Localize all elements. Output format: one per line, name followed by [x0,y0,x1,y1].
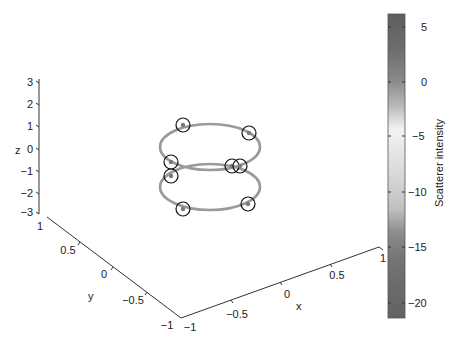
z-tick-label: 2 [27,98,33,110]
y-tick-label: 0.5 [60,244,75,256]
scatterer-marker [242,126,256,140]
scatterer-markers [164,118,256,216]
z-tick-label: 0 [27,143,33,155]
colorbar-tick-label: −5 [412,130,425,142]
y-tick-label: 1 [37,220,43,232]
colorbar-tick-label: −10 [408,186,427,198]
y-ticks [78,242,147,295]
y-tick-label: 0 [101,268,107,280]
colorbar-label: Scatterer intensity [433,118,445,207]
x-tick-label: −0.5 [226,308,248,320]
z-axis: 3 2 1 0 −1 −2 −3 z [15,76,39,218]
z-tick-label: −2 [20,187,33,199]
z-tick-label: 1 [27,120,33,132]
scatterer-plot: 3 2 1 0 −1 −2 −3 z 1 0.5 0 −0.5 −1 y −1 … [0,0,459,349]
y-axis-label: y [88,290,94,302]
y-tick-label: −0.5 [122,294,144,306]
x-axis-line [181,247,383,318]
z-axis-label: z [15,144,21,156]
z-tick-label: −3 [20,206,33,218]
colorbar-gradient [388,14,405,318]
colorbar-tick-label: −20 [408,297,427,309]
x-tick-label: 0 [284,288,290,300]
x-axis-label: x [296,300,302,312]
colorbar: 5 0 −5 −10 −15 −20 Scatterer intensity [388,14,445,318]
x-axis: −1 −0.5 0 0.5 1 x [181,247,386,333]
y-tick-label: −1 [161,319,174,331]
colorbar-tick-label: 0 [421,76,427,88]
colorbar-tick-label: 5 [421,21,427,33]
x-tick-label: −1 [184,321,197,333]
y-axis: 1 0.5 0 −0.5 −1 y [37,217,181,331]
x-tick-label: 0.5 [329,269,344,281]
x-ticks [231,264,332,303]
x-tick-label: 1 [380,252,386,264]
z-tick-label: 3 [27,76,33,88]
z-tick-label: −1 [20,165,33,177]
scatterer-marker [164,155,178,169]
y-axis-line [47,217,181,318]
colorbar-tick-label: −15 [408,241,427,253]
